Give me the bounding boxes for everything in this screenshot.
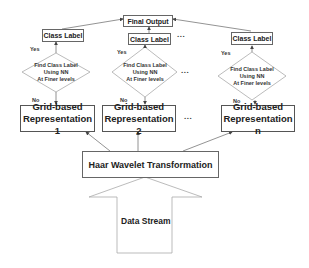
yes-label-1: Yes [30, 46, 39, 52]
grid-representation-box-1: Grid-based Representation 1 [20, 105, 95, 132]
class-label-box-n: Class Label [231, 32, 273, 45]
haar-wavelet-box: Haar Wavelet Transformation [82, 151, 219, 178]
data-stream-arrow [89, 177, 202, 253]
diagram-canvas: Final Output Class Label Yes Find Class … [0, 0, 309, 268]
yes-label-n: Yes [221, 50, 230, 56]
class-label-box-2: Class Label [128, 33, 171, 45]
yes-label-2: Yes [117, 49, 126, 55]
ellipsis-middle: ... [181, 66, 189, 75]
data-stream-label: Data Stream [121, 216, 171, 226]
decision-text-1: Find Class Label Using NN At Finer level… [26, 62, 86, 83]
final-output-box: Final Output [123, 15, 173, 27]
ellipsis-top: ... [177, 30, 185, 39]
decision-text-n: Find Class Label Using NN At Finer level… [222, 66, 282, 87]
decision-text-2: Find Class Label Using NN At Finer level… [115, 62, 175, 83]
grid-representation-box-n: Grid-based Representation n [221, 105, 295, 132]
ellipsis-bottom: ... [184, 112, 192, 121]
class-label-box-1: Class Label [42, 29, 84, 42]
grid-representation-box-2: Grid-based Representation 2 [102, 105, 176, 132]
